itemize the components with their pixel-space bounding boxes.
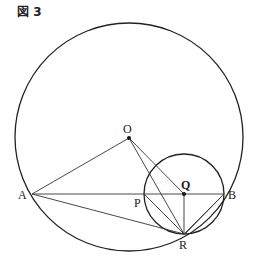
segment-br-2 [186,196,222,233]
label-p: P [134,196,141,210]
label-a: A [18,188,27,202]
segment-ar [32,194,184,234]
geometry-diagram: O A B P Q R [0,0,253,261]
segment-oa [32,138,129,194]
label-b: B [228,188,236,202]
label-q: Q [181,178,190,192]
label-r: R [179,238,187,252]
point-q-dot [182,192,186,196]
point-o-dot [127,136,131,140]
label-o: O [123,122,132,136]
